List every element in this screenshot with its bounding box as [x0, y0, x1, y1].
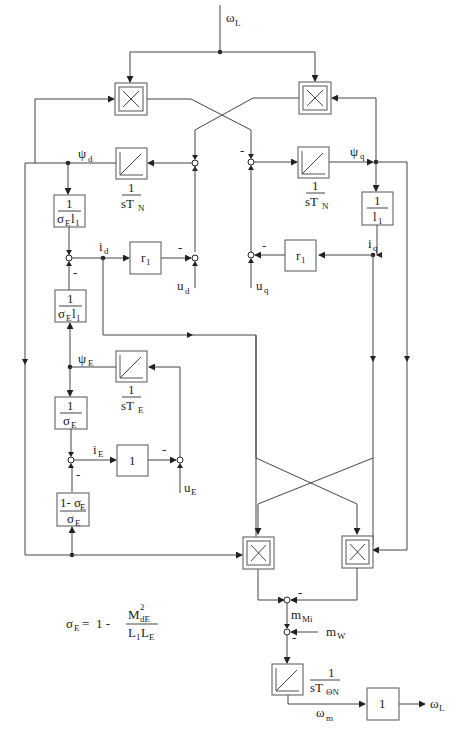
svg-text:1: 1 [128, 180, 135, 195]
svg-text:W: W [337, 631, 346, 641]
field-loop: ψ E 1 sT E 1 σ E - i E 1 - u E 1 [55, 351, 197, 557]
svg-text:1: 1 [378, 216, 383, 226]
u-d-label: u [177, 278, 184, 293]
omega-m-label: ω [316, 705, 325, 720]
svg-text:1: 1 [67, 398, 74, 413]
svg-text:N: N [138, 203, 145, 213]
svg-text:σ: σ [63, 413, 70, 428]
svg-text:1: 1 [128, 382, 135, 397]
svg-text:L: L [141, 625, 149, 640]
sum-junction [248, 159, 254, 165]
multiplier-top-left [115, 83, 147, 115]
svg-text:-: - [73, 265, 77, 280]
svg-text:q: q [264, 285, 269, 295]
svg-text:E: E [75, 518, 81, 528]
sum-junction [177, 457, 183, 463]
svg-text:1: 1 [146, 257, 151, 267]
svg-text:d: d [185, 286, 190, 296]
svg-text:=: = [82, 616, 89, 631]
svg-text:E: E [71, 420, 77, 430]
svg-text:1: 1 [75, 218, 80, 228]
svg-text:σ: σ [66, 616, 73, 631]
psi-e-label: ψ [78, 351, 86, 366]
svg-text:ΘN: ΘN [326, 687, 339, 697]
svg-text:2: 2 [140, 602, 145, 612]
omega-l-label: ω [226, 10, 235, 25]
omega-l-input: ω L [130, 5, 315, 82]
sum-junction [284, 629, 290, 635]
sum-junction [68, 457, 74, 463]
u-e-label: u [184, 480, 191, 495]
svg-text:d: d [104, 246, 109, 256]
svg-text:-: - [292, 630, 296, 645]
svg-text:σ: σ [58, 306, 65, 321]
multiplier-bottom-left [243, 537, 274, 569]
svg-text:sT: sT [121, 398, 134, 413]
svg-text:1: 1 [328, 665, 335, 680]
m-mi-label: m [291, 607, 301, 622]
svg-text:1: 1 [66, 196, 73, 211]
svg-text:-: - [76, 467, 80, 482]
i-q-label: i [368, 236, 372, 251]
svg-text:Mi: Mi [302, 614, 313, 624]
d-axis-loop: 1 sT N ψ d 1 σ E l 1 - i d r 1 - u [25, 146, 256, 545]
svg-text:N: N [322, 201, 329, 211]
sum-junction [284, 597, 290, 603]
svg-text:sT: sT [305, 194, 318, 209]
psi-d-label: ψ [78, 146, 86, 161]
svg-text:-: - [298, 585, 302, 600]
psi-q-label: ψ [350, 144, 358, 159]
svg-text:1- σ: 1- σ [60, 495, 81, 510]
svg-text:q: q [373, 243, 378, 253]
svg-text:dE: dE [140, 614, 151, 624]
svg-text:1: 1 [301, 255, 306, 265]
svg-text:sT: sT [310, 680, 323, 695]
omega-l-output-label: ω [430, 696, 439, 711]
svg-text:-: - [162, 442, 166, 457]
svg-text:-: - [178, 240, 182, 255]
svg-text:E: E [191, 487, 197, 497]
svg-text:1: 1 [76, 313, 81, 323]
sum-junction [66, 255, 72, 261]
svg-text:M: M [128, 607, 140, 622]
svg-text:E: E [149, 632, 155, 642]
svg-text:1: 1 [129, 453, 136, 468]
svg-text:1: 1 [379, 696, 386, 711]
svg-text:1 -: 1 - [96, 616, 110, 631]
sum-junction [192, 160, 198, 166]
svg-text:-: - [262, 238, 266, 253]
u-q-label: u [256, 278, 263, 293]
svg-text:σ: σ [67, 511, 74, 526]
svg-text:E: E [74, 623, 80, 633]
svg-text:l: l [373, 209, 377, 224]
multiplier-top-right [299, 82, 331, 114]
svg-text:sT: sT [121, 196, 134, 211]
sum-junction [248, 252, 254, 258]
i-d-label: i [99, 239, 103, 254]
svg-text:L: L [439, 703, 445, 713]
svg-text:1: 1 [374, 193, 381, 208]
svg-text:q: q [360, 151, 365, 161]
svg-text:E: E [98, 449, 104, 459]
svg-text:d: d [88, 154, 93, 164]
sigma-e-formula: σ E = 1 - M 2 dE L 1 L E [66, 602, 158, 642]
multiplier-bottom-right [342, 536, 373, 568]
m-w-label: m [326, 624, 336, 639]
svg-text:L: L [128, 625, 136, 640]
sum-junction [192, 255, 198, 261]
block-diagram: ω L 1 sT N [0, 0, 461, 739]
svg-text:1: 1 [136, 632, 141, 642]
svg-text:1: 1 [67, 291, 74, 306]
svg-text:m: m [326, 713, 333, 723]
i-e-label: i [93, 442, 97, 457]
svg-text:σ: σ [57, 211, 64, 226]
svg-text:-: - [240, 143, 244, 158]
svg-text:L: L [235, 18, 241, 28]
svg-text:1: 1 [312, 178, 319, 193]
svg-text:E: E [138, 405, 144, 415]
